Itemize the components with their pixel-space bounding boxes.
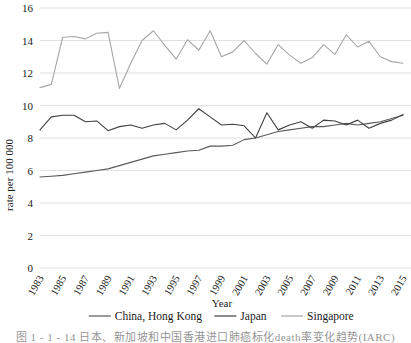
x-axis-title: Year: [212, 297, 233, 309]
x-tick-label: 1999: [207, 274, 227, 298]
x-axis-tick-labels: 1983198519871989199119931995199719992001…: [26, 274, 409, 298]
legend: China, Hong KongJapanSingapore: [89, 310, 354, 323]
x-tick-label: 1985: [48, 274, 68, 298]
x-tick-label: 1995: [162, 274, 182, 298]
x-tick-label: 2011: [344, 274, 364, 297]
y-tick-label: 8: [28, 132, 34, 144]
y-tick-label: 4: [28, 197, 34, 209]
legend-label-1[interactable]: China, Hong Kong: [115, 310, 202, 323]
gridlines-group: [40, 8, 411, 268]
x-tick-label: 1989: [94, 274, 114, 298]
line-chart: 0246810121416 19831985198719891991199319…: [0, 0, 411, 343]
y-tick-label: 6: [28, 165, 34, 177]
y-tick-label: 2: [28, 230, 34, 242]
x-tick-label: 2013: [366, 274, 386, 298]
x-tick-label: 2001: [230, 274, 250, 298]
y-tick-label: 0: [28, 262, 34, 274]
y-tick-label: 10: [22, 100, 34, 112]
y-tick-label: 16: [22, 2, 34, 14]
legend-label-2[interactable]: Japan: [240, 310, 266, 323]
y-axis-tick-labels: 0246810121416: [22, 2, 34, 274]
legend-label-3[interactable]: Singapore: [307, 310, 354, 323]
y-axis-title: rate per 100 000: [3, 139, 15, 211]
figure-caption: 图 1 - 1 - 14 日本、新加坡和中国香港进口肺癌标化death率变化趋势…: [0, 330, 411, 343]
y-tick-label: 14: [22, 35, 34, 47]
x-tick-label: 2007: [298, 274, 318, 298]
x-tick-label: 1983: [26, 274, 46, 298]
series-line-3: [40, 31, 403, 89]
x-tick-label: 1987: [71, 274, 91, 298]
series-lines-group: [40, 31, 403, 177]
x-tick-label: 1997: [185, 274, 205, 298]
x-tick-label: 2015: [389, 274, 409, 298]
x-tick-label: 2005: [275, 274, 295, 298]
x-tick-label: 1993: [139, 274, 159, 298]
x-tick-label: 1991: [116, 274, 136, 298]
y-tick-label: 12: [22, 67, 33, 79]
figure-container: 0246810121416 19831985198719891991199319…: [0, 0, 411, 343]
x-tick-label: 2003: [253, 274, 273, 298]
x-tick-label: 2009: [321, 274, 341, 298]
